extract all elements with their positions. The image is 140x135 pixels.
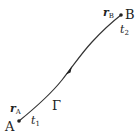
position-vector-b-label: rB [103,6,114,20]
point-b-dot [119,13,123,17]
point-a-label: A [4,119,15,134]
param-t2-label: t2 [120,23,129,37]
param-t1-label: t1 [31,114,40,128]
curve-gamma [19,15,121,121]
point-b-label: B [125,7,135,22]
diagram-svg: A B rA rB t1 t2 Γ [0,0,140,135]
point-a-dot [17,119,21,123]
path-diagram: A B rA rB t1 t2 Γ [0,0,140,135]
curve-gamma-label: Γ [52,98,61,113]
position-vector-a-label: rA [10,102,22,116]
